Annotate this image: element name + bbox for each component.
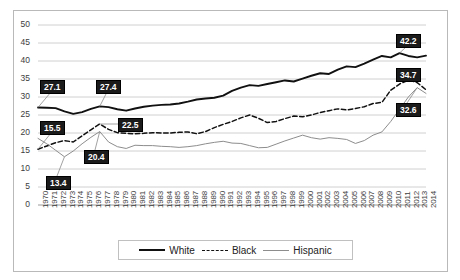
y-axis-tick-label: 20 (8, 127, 30, 137)
legend-swatch-black-icon (202, 250, 228, 251)
legend-label-white: White (169, 245, 195, 256)
legend-swatch-hispanic-icon (263, 250, 289, 251)
data-point-label: 42.2 (396, 34, 421, 48)
x-axis-tick-label: 1999 (297, 191, 306, 208)
y-axis-tick-label: 35 (8, 73, 30, 83)
y-axis-tick-label: 50 (8, 19, 30, 29)
gridlines (38, 25, 426, 205)
x-axis-tick-label: 1997 (279, 191, 288, 208)
legend-item-black[interactable]: Black (202, 245, 256, 256)
data-point-label: 15.5 (40, 121, 65, 135)
legend-label-black: Black (232, 245, 256, 256)
y-axis-tick-label: 30 (8, 91, 30, 101)
x-axis-tick-label: 1982 (147, 191, 156, 208)
y-axis-tick-label: 10 (8, 163, 30, 173)
legend-item-white[interactable]: White (139, 245, 195, 256)
x-axis-tick-label: 1988 (200, 191, 209, 208)
x-axis-tick-label: 1976 (94, 191, 103, 208)
x-axis-tick-label: 2000 (306, 191, 315, 208)
x-axis-tick-label: 2010 (394, 191, 403, 208)
x-axis-tick-label: 1993 (244, 191, 253, 208)
x-axis-tick-label: 1987 (191, 191, 200, 208)
y-axis-tick-label: 5 (8, 181, 30, 191)
x-axis-tick-label: 1978 (112, 191, 121, 208)
data-point-label: 34.7 (396, 68, 421, 82)
y-axis-tick-label: 45 (8, 37, 30, 47)
x-axis-tick-label: 1998 (288, 191, 297, 208)
legend-item-hispanic[interactable]: Hispanic (263, 245, 331, 256)
chart-legend: White Black Hispanic (118, 240, 353, 260)
annotation-leader (407, 88, 417, 103)
x-axis-tick-label: 1972 (59, 191, 68, 208)
series-lines (38, 53, 426, 157)
annotation-leader (57, 157, 64, 176)
data-point-label: 20.4 (84, 150, 109, 164)
x-axis-tick-label: 1981 (138, 191, 147, 208)
line-chart (0, 0, 460, 280)
y-axis-tick-label: 40 (8, 55, 30, 65)
x-axis-tick-label: 2009 (385, 191, 394, 208)
x-axis-tick-label: 2011 (403, 192, 412, 208)
data-point-label: 27.1 (40, 80, 65, 94)
x-axis-tick-label: 1989 (209, 191, 218, 208)
x-axis-tick-label: 1983 (156, 191, 165, 208)
data-point-label: 13.4 (46, 176, 71, 190)
y-axis-tick-label: 15 (8, 145, 30, 155)
x-axis-tick-label: 2008 (376, 191, 385, 208)
x-axis-tick-label: 1975 (85, 191, 94, 208)
data-point-label: 22.5 (118, 118, 143, 132)
annotation-leader (38, 92, 51, 107)
legend-swatch-white-icon (139, 249, 165, 251)
data-point-label: 27.4 (96, 80, 121, 94)
data-point-label: 32.6 (396, 103, 421, 117)
x-axis-tick-label: 2014 (429, 191, 438, 208)
x-axis-tick-label: 1992 (235, 191, 244, 208)
x-axis-tick-label: 1994 (253, 191, 262, 208)
y-axis-tick-label: 25 (8, 109, 30, 119)
x-axis-tick-label: 1977 (103, 191, 112, 208)
x-axis-tick-label: 2005 (350, 191, 359, 208)
x-axis-tick-label: 1986 (182, 191, 191, 208)
x-axis-tick-label: 2004 (341, 191, 350, 208)
x-axis-tick-label: 1971 (50, 191, 59, 208)
x-axis-tick-label: 2003 (332, 191, 341, 208)
y-axis-tick-label: 0 (8, 199, 30, 209)
x-axis-tick-label: 1970 (41, 191, 50, 208)
annotation-leader (100, 92, 107, 106)
legend-label-hispanic: Hispanic (293, 245, 331, 256)
